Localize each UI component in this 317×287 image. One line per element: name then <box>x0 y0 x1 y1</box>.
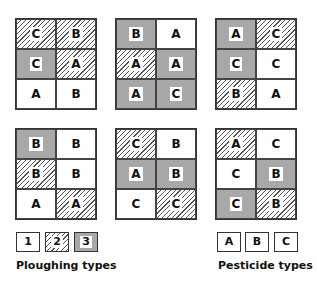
plot-cell: A <box>256 79 296 109</box>
pesticide-label: A <box>29 87 42 101</box>
pesticide-label: B <box>269 167 282 181</box>
plot-cell: C <box>256 19 296 49</box>
pesticide-label: A <box>129 167 142 181</box>
pesticide-type-c-swatch: C <box>274 232 298 252</box>
plot-cell: B <box>56 79 96 109</box>
pesticide-label: C <box>130 137 143 151</box>
pesticide-label: C <box>130 197 143 211</box>
plot-cell: C <box>16 49 56 79</box>
plot-cell: B <box>216 79 256 109</box>
plot-cell: B <box>256 159 296 189</box>
pesticide-label: B <box>69 167 82 181</box>
pesticide-label: A <box>169 27 182 41</box>
pesticide-type-a-label: A <box>223 236 236 248</box>
pesticide-label: A <box>229 137 242 151</box>
pesticide-label: B <box>29 167 42 181</box>
pesticide-label: A <box>129 57 142 71</box>
pesticide-label: C <box>270 57 283 71</box>
pesticide-label: A <box>69 197 82 211</box>
pesticide-type-c-label: C <box>280 236 292 248</box>
pesticide-label: C <box>30 27 43 41</box>
pesticide-label: B <box>69 137 82 151</box>
pesticide-label: A <box>129 87 142 101</box>
plot-cell: A <box>56 49 96 79</box>
plot-cell: A <box>156 49 196 79</box>
plot-cell: A <box>116 159 156 189</box>
plot-cell: B <box>56 159 96 189</box>
pesticide-label: C <box>230 167 243 181</box>
pesticide-type-b-swatch: B <box>245 232 269 252</box>
pesticide-label: C <box>230 197 243 211</box>
plot-cell: A <box>16 189 56 219</box>
ploughing-type-3-swatch: 3 <box>74 232 98 252</box>
pesticide-type-b-label: B <box>251 236 263 248</box>
pesticide-label: C <box>230 57 243 71</box>
pesticide-label: A <box>229 27 242 41</box>
pesticide-label: C <box>270 137 283 151</box>
plot-cell: B <box>16 129 56 159</box>
ploughing-type-1-label: 1 <box>22 236 34 248</box>
ploughing-type-3-label: 3 <box>80 236 92 248</box>
pesticide-label: A <box>29 197 42 211</box>
plot-cell: B <box>156 129 196 159</box>
plot-cell: B <box>116 19 156 49</box>
plot-cell: A <box>56 189 96 219</box>
pesticide-label: A <box>269 87 282 101</box>
plot-cell: B <box>256 189 296 219</box>
pesticide-label: B <box>69 87 82 101</box>
pesticide-label: C <box>170 197 183 211</box>
ploughing-type-1-swatch: 1 <box>16 232 40 252</box>
plot-cell: C <box>16 19 56 49</box>
ploughing-type-2-label: 2 <box>51 236 63 248</box>
ploughing-type-2-swatch: 2 <box>45 232 69 252</box>
plot-cell: A <box>216 129 256 159</box>
plot-cell: B <box>56 19 96 49</box>
pesticide-label: B <box>169 137 182 151</box>
plot-cell: A <box>156 19 196 49</box>
plot-cell: C <box>216 159 256 189</box>
plot-cell: C <box>216 49 256 79</box>
plot-cell: C <box>256 49 296 79</box>
plot-cell: A <box>16 79 56 109</box>
pesticide-label: B <box>269 197 282 211</box>
pesticide-label: B <box>229 87 242 101</box>
ploughing-legend-title: Ploughing types <box>16 259 117 272</box>
plot-bottom-middle: CBABCC <box>115 128 197 220</box>
plot-cell: A <box>216 19 256 49</box>
plot-top-left: CBCAAB <box>15 18 97 110</box>
plot-cell: A <box>116 49 156 79</box>
plot-bottom-left: BBBBAA <box>15 128 97 220</box>
plot-bottom-right: ACCBCB <box>215 128 297 220</box>
plot-cell: C <box>116 189 156 219</box>
pesticide-legend-title: Pesticide types <box>218 259 313 272</box>
pesticide-label: B <box>69 27 82 41</box>
plot-cell: C <box>256 129 296 159</box>
pesticide-label: B <box>29 137 42 151</box>
plot-cell: C <box>156 79 196 109</box>
plot-cell: B <box>56 129 96 159</box>
pesticide-label: B <box>129 27 142 41</box>
plot-cell: B <box>16 159 56 189</box>
pesticide-label: C <box>170 87 183 101</box>
plot-cell: B <box>156 159 196 189</box>
pesticide-type-a-swatch: A <box>217 232 241 252</box>
plot-cell: A <box>116 79 156 109</box>
plot-cell: C <box>216 189 256 219</box>
plot-cell: C <box>156 189 196 219</box>
pesticide-label: A <box>69 57 82 71</box>
plot-cell: C <box>116 129 156 159</box>
pesticide-label: A <box>169 57 182 71</box>
plot-top-right: ACCCBA <box>215 18 297 110</box>
pesticide-label: B <box>169 167 182 181</box>
plot-top-middle: BAAAAC <box>115 18 197 110</box>
pesticide-label: C <box>30 57 43 71</box>
pesticide-label: C <box>270 27 283 41</box>
